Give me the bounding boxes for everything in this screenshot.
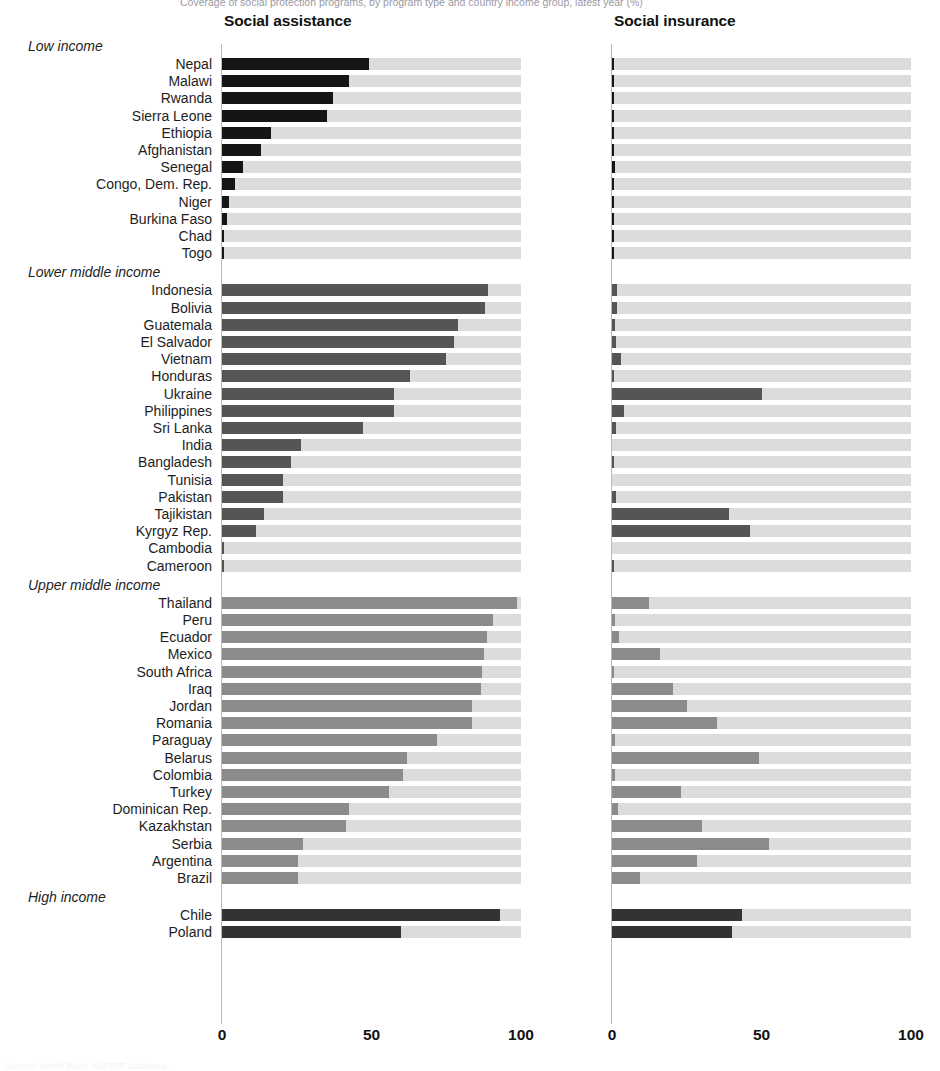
- bar-row: Colombia: [0, 767, 940, 783]
- bar-fill-insurance: [612, 803, 618, 815]
- bar-track-insurance: [612, 388, 911, 400]
- bar-fill-assistance: [222, 110, 327, 122]
- bar-track-insurance: [612, 336, 911, 348]
- bar-fill-assistance: [222, 247, 224, 259]
- bar-track-insurance: [612, 247, 911, 259]
- bar-track-assistance: [222, 872, 521, 884]
- bar-fill-insurance: [612, 926, 732, 938]
- group-heading-label: Low income: [28, 38, 103, 54]
- country-label: Paraguay: [0, 732, 212, 748]
- bar-fill-insurance: [612, 110, 614, 122]
- bar-track-insurance: [612, 196, 911, 208]
- bar-fill-assistance: [222, 196, 229, 208]
- group-heading-label: Upper middle income: [28, 577, 160, 593]
- country-label: Peru: [0, 612, 212, 628]
- bar-track-assistance: [222, 508, 521, 520]
- group-heading-lower_middle: Lower middle income: [0, 264, 940, 280]
- bar-fill-assistance: [222, 474, 283, 486]
- bar-fill-assistance: [222, 803, 349, 815]
- bar-track-insurance: [612, 144, 911, 156]
- bar-track-assistance: [222, 439, 521, 451]
- bar-track-assistance: [222, 456, 521, 468]
- country-label: Bangladesh: [0, 454, 212, 470]
- bar-row: South Africa: [0, 664, 940, 680]
- bar-track-insurance: [612, 405, 911, 417]
- bar-fill-assistance: [222, 700, 472, 712]
- bar-fill-insurance: [612, 161, 615, 173]
- bar-track-insurance: [612, 560, 911, 572]
- bar-track-insurance: [612, 855, 911, 867]
- bar-fill-insurance: [612, 508, 729, 520]
- bar-track-assistance: [222, 525, 521, 537]
- bar-fill-assistance: [222, 92, 333, 104]
- bar-fill-insurance: [612, 769, 615, 781]
- bar-track-assistance: [222, 717, 521, 729]
- bar-row: Vietnam: [0, 351, 940, 367]
- bar-row: Burkina Faso: [0, 211, 940, 227]
- bar-row: Ukraine: [0, 386, 940, 402]
- country-label: Afghanistan: [0, 142, 212, 158]
- bar-track-assistance: [222, 388, 521, 400]
- bar-fill-insurance: [612, 683, 673, 695]
- bar-row: Poland: [0, 924, 940, 940]
- bar-fill-assistance: [222, 439, 301, 451]
- bar-fill-insurance: [612, 302, 617, 314]
- bar-track-insurance: [612, 127, 911, 139]
- group-heading-upper_middle: Upper middle income: [0, 577, 940, 593]
- country-label: Kazakhstan: [0, 818, 212, 834]
- country-label: Malawi: [0, 73, 212, 89]
- x-axis-right-panel: 050100: [0, 1026, 940, 1048]
- country-label: Honduras: [0, 368, 212, 384]
- country-label: Togo: [0, 245, 212, 261]
- bar-track-assistance: [222, 700, 521, 712]
- bar-row: Serbia: [0, 836, 940, 852]
- country-label: Congo, Dem. Rep.: [0, 176, 212, 192]
- bar-track-insurance: [612, 491, 911, 503]
- bar-track-insurance: [612, 803, 911, 815]
- bar-row: Ecuador: [0, 629, 940, 645]
- bar-track-insurance: [612, 422, 911, 434]
- bar-fill-insurance: [612, 717, 717, 729]
- country-label: South Africa: [0, 664, 212, 680]
- country-label: Sierra Leone: [0, 108, 212, 124]
- bar-fill-assistance: [222, 508, 264, 520]
- bar-track-insurance: [612, 456, 911, 468]
- country-label: Thailand: [0, 595, 212, 611]
- bar-track-insurance: [612, 717, 911, 729]
- bar-track-assistance: [222, 648, 521, 660]
- bar-track-assistance: [222, 560, 521, 572]
- bar-fill-insurance: [612, 196, 614, 208]
- bar-fill-assistance: [222, 752, 407, 764]
- bar-fill-insurance: [612, 820, 702, 832]
- bar-fill-assistance: [222, 353, 446, 365]
- bar-fill-insurance: [612, 838, 769, 850]
- bar-row: Afghanistan: [0, 142, 940, 158]
- axis-tick-label: 100: [898, 1026, 924, 1044]
- bar-track-insurance: [612, 75, 911, 87]
- bar-track-insurance: [612, 353, 911, 365]
- bar-track-assistance: [222, 353, 521, 365]
- bar-fill-insurance: [612, 666, 614, 678]
- bar-track-assistance: [222, 422, 521, 434]
- country-label: Argentina: [0, 853, 212, 869]
- bar-track-insurance: [612, 439, 911, 451]
- bar-track-assistance: [222, 247, 521, 259]
- bar-row: Bangladesh: [0, 454, 940, 470]
- bar-track-insurance: [612, 474, 911, 486]
- bar-track-insurance: [612, 178, 911, 190]
- panel-title-social-assistance: Social assistance: [224, 12, 352, 30]
- bar-fill-insurance: [612, 560, 614, 572]
- bar-track-assistance: [222, 855, 521, 867]
- bar-track-insurance: [612, 909, 911, 921]
- country-label: Cambodia: [0, 540, 212, 556]
- bar-fill-insurance: [612, 631, 619, 643]
- bar-track-assistance: [222, 196, 521, 208]
- country-label: Niger: [0, 194, 212, 210]
- bar-fill-insurance: [612, 456, 614, 468]
- bar-track-insurance: [612, 786, 911, 798]
- bar-row: Chad: [0, 228, 940, 244]
- country-label: Senegal: [0, 159, 212, 175]
- bar-track-insurance: [612, 700, 911, 712]
- bar-track-insurance: [612, 666, 911, 678]
- bar-track-insurance: [612, 161, 911, 173]
